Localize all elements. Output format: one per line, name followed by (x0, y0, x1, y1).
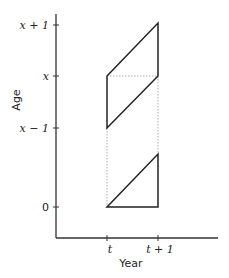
y-axis-label: Age (10, 89, 23, 111)
y-tick-label: x (43, 70, 50, 83)
y-tick-label: 0 (42, 201, 49, 214)
y-tick-label: x + 1 (20, 19, 49, 32)
lexis-diagram: x + 1 x x − 1 0 t t + 1 Year Age (0, 0, 229, 278)
y-tick-label: x − 1 (20, 122, 49, 135)
x-axis-label: Year (118, 257, 143, 270)
upper-parallelogram (107, 23, 158, 128)
guide-lines (107, 76, 158, 207)
x-tick-label: t (108, 243, 113, 256)
lower-triangle (107, 154, 158, 207)
x-tick-label: t + 1 (146, 243, 174, 256)
